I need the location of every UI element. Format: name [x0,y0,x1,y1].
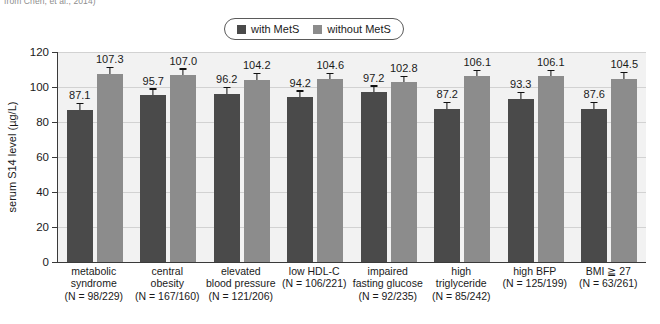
bar-wrapper: 96.2 [214,94,240,262]
y-axis-tick [52,262,58,263]
error-bar [447,103,448,109]
bar[interactable] [317,79,343,262]
bar[interactable] [434,109,460,262]
error-bar-cap [621,72,628,73]
error-bar-cap [400,76,407,77]
bar[interactable] [287,97,313,262]
y-axis-title: serum S14 level (µg/L) [6,52,20,262]
error-bar [256,74,257,79]
x-axis-label-line: impaired [351,265,425,277]
bar-value-label: 96.2 [216,73,237,85]
bar[interactable] [508,99,534,262]
x-axis-label-line: (N = 63/261) [572,277,646,289]
x-axis-label-line: (N = 106/221) [278,277,352,289]
y-axis-tick-label: 20 [36,221,49,233]
bar[interactable] [611,79,637,262]
bar-group: 87.6104.5 [573,52,647,262]
y-axis-tick-label: 120 [30,46,49,58]
x-axis-label: impairedfasting glucose(N = 92/235) [351,265,425,302]
bar[interactable] [244,80,270,262]
error-bar [520,93,521,99]
error-bar-cap [297,90,304,91]
x-axis-label-line: (N = 121/206) [204,290,278,302]
bar-wrapper: 104.2 [244,80,270,262]
x-axis-label-line: obesity [131,277,205,289]
bar[interactable] [97,74,123,262]
error-bar-cap [180,68,187,69]
bar-value-label: 95.7 [143,75,164,87]
chart-legend: with MetS without MetS [224,18,404,40]
bar-value-label: 104.6 [316,59,344,71]
bar[interactable] [581,109,607,262]
bar-value-label: 94.2 [290,77,311,89]
bar-wrapper: 93.3 [508,99,534,262]
bar-value-label: 107.0 [169,55,197,67]
bar[interactable] [67,110,93,262]
bar[interactable] [214,94,240,262]
bar[interactable] [140,95,166,262]
x-axis-label-line: blood pressure [204,277,278,289]
error-bar [226,88,227,93]
error-bar [300,92,301,98]
x-axis-label-line: central [131,265,205,277]
x-axis-label-line: fasting glucose [351,277,425,289]
bar[interactable] [464,76,490,262]
bar[interactable] [391,82,417,262]
y-axis-tick-label: 0 [43,256,49,268]
bar-group: 87.2106.1 [426,52,500,262]
x-axis-label: hightriglyceride(N = 85/242) [425,265,499,302]
x-axis-label-line: triglyceride [425,277,499,289]
bar-value-label: 104.5 [610,58,638,70]
legend-swatch-without-mets [313,25,322,34]
bar-group: 96.2104.2 [205,52,279,262]
error-bar [153,90,154,95]
bar-wrapper: 87.1 [67,110,93,262]
error-bar [330,74,331,79]
x-axis-label: high BFP(N = 125/199) [498,265,572,302]
bar-value-label: 87.1 [69,89,90,101]
error-bar-cap [327,73,334,74]
x-axis-label-line: (N = 85/242) [425,290,499,302]
bar-value-label: 106.1 [463,56,491,68]
x-axis-label-line: (N = 167/160) [131,290,205,302]
bar-value-label: 107.3 [96,53,124,65]
bar-value-label: 104.2 [243,59,271,71]
x-axis-label-line: elevated [204,265,278,277]
error-bar [477,71,478,77]
bar-group: 87.1107.3 [58,52,132,262]
bar[interactable] [361,92,387,262]
x-axis-label: low HDL-C(N = 106/221) [278,265,352,302]
bar-wrapper: 104.6 [317,79,343,262]
legend-item-with-mets: with MetS [237,23,299,35]
x-axis-labels: metabolicsyndrome(N = 98/229)centralobes… [57,265,645,302]
bar-value-label: 93.3 [510,78,531,90]
error-bar-cap [474,70,481,71]
error-bar-cap [517,92,524,93]
bar-value-label: 97.2 [363,72,384,84]
bar-groups: 87.1107.395.7107.096.2104.294.2104.697.2… [58,52,646,262]
bar-wrapper: 95.7 [140,95,166,262]
legend-label-with-mets: with MetS [251,23,299,35]
bar-value-label: 102.8 [390,62,418,74]
plot-area: 020406080100120 87.1107.395.7107.096.210… [57,52,646,263]
bar[interactable] [538,76,564,262]
error-bar-cap [591,102,598,103]
legend-label-without-mets: without MetS [327,23,391,35]
bar-wrapper: 97.2 [361,92,387,262]
bar-wrapper: 87.6 [581,109,607,262]
bar-wrapper: 87.2 [434,109,460,262]
bar-wrapper: 94.2 [287,97,313,262]
x-axis-label: centralobesity(N = 167/160) [131,265,205,302]
bar-group: 93.3106.1 [499,52,573,262]
error-bar-cap [76,103,83,104]
x-axis-label: metabolicsyndrome(N = 98/229) [57,265,131,302]
error-bar [183,70,184,75]
error-bar-cap [223,87,230,88]
error-bar [624,73,625,79]
bar-wrapper: 104.5 [611,79,637,262]
x-axis-label-line: high BFP [498,265,572,277]
source-citation: from Chen, et al., 2014) [4,0,96,6]
bar[interactable] [170,75,196,262]
bar-group: 94.2104.6 [279,52,353,262]
bar-value-label: 87.6 [584,88,605,100]
